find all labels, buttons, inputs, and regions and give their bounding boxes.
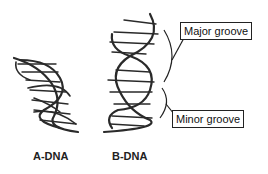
major-groove-pointer [172, 38, 184, 60]
major-groove-callout: Major groove [180, 22, 252, 40]
b-dna-label: B-DNA [112, 150, 147, 162]
groove-brackets [160, 30, 184, 118]
minor-groove-bracket [160, 88, 167, 118]
a-dna-label: A-DNA [33, 150, 68, 162]
a-dna-helix [14, 58, 78, 132]
major-groove-bracket [164, 30, 172, 82]
b-dna-helix [104, 14, 158, 132]
minor-groove-callout: Minor groove [172, 110, 244, 128]
